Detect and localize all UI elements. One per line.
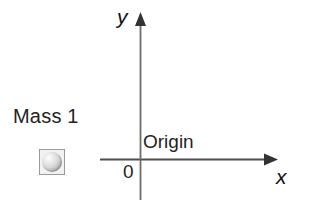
origin-label: Origin <box>143 132 194 151</box>
y-axis-arrowhead <box>135 12 146 26</box>
mass-1-label: Mass 1 <box>13 106 79 126</box>
zero-tick-label: 0 <box>123 162 134 181</box>
sphere-icon <box>42 152 62 172</box>
y-axis-label: y <box>117 6 128 27</box>
mass-1-object <box>39 149 65 175</box>
x-axis-label: x <box>276 166 287 187</box>
coordinate-axes-figure: y x Origin 0 Mass 1 <box>0 0 310 215</box>
x-axis-arrowhead <box>264 154 278 166</box>
